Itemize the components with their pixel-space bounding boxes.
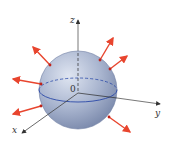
- normal-vector-left-low: [13, 106, 41, 114]
- normal-vector-upper-right-2: [110, 56, 127, 69]
- z-axis-label: z: [69, 15, 75, 25]
- normal-base-left-low: [40, 105, 43, 108]
- y-axis-label: y: [154, 108, 161, 118]
- sphere-normals-diagram: z y x 0: [0, 0, 171, 142]
- origin-label: 0: [70, 84, 76, 94]
- normal-vector-lower-right: [109, 117, 130, 132]
- y-axis: [117, 98, 160, 104]
- normal-vector-left-mid: [13, 79, 41, 84]
- normal-vector-upper-left: [33, 47, 50, 65]
- normal-base-lower-right: [108, 116, 111, 119]
- normal-vector-upper-right-1: [100, 38, 113, 60]
- normal-base-upper-right-2: [109, 68, 112, 71]
- normal-base-left-mid: [40, 83, 43, 86]
- x-axis-label: x: [12, 125, 17, 135]
- normal-base-upper-right-1: [99, 59, 102, 62]
- normal-base-upper-left: [49, 64, 52, 67]
